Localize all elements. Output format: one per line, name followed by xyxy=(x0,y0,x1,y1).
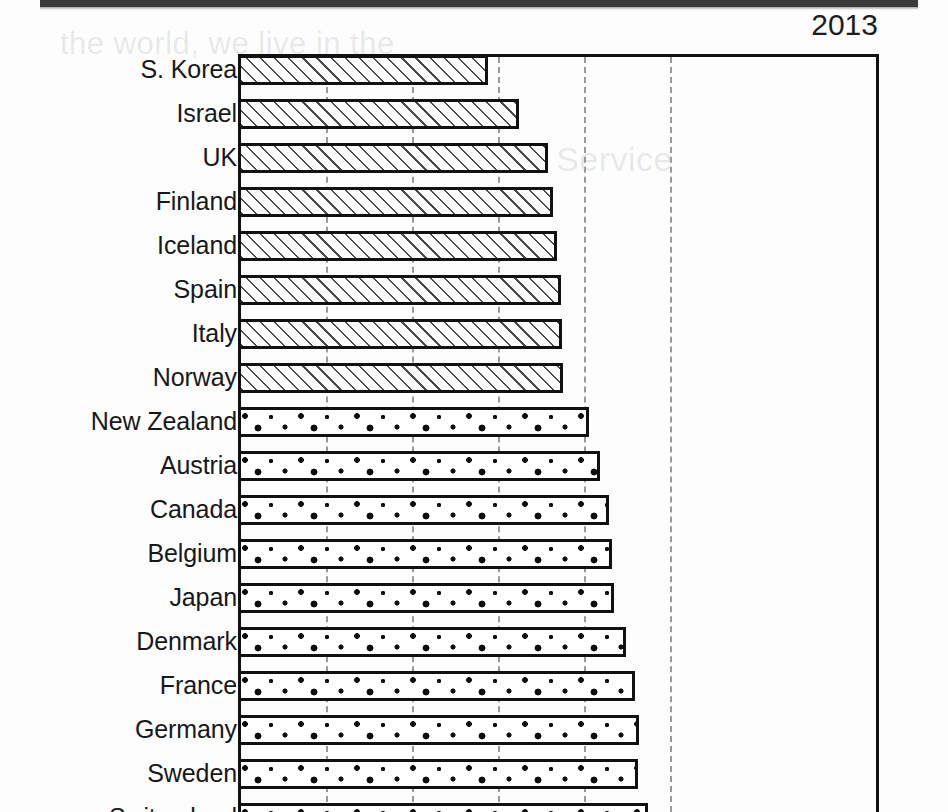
bar-row: Israel xyxy=(0,98,948,142)
category-label: Israel xyxy=(176,98,237,128)
bar-row: Switzerland xyxy=(0,802,948,812)
bar-row: Iceland xyxy=(0,230,948,274)
category-label: Finland xyxy=(156,186,237,216)
chart-year-label: 2013 xyxy=(811,8,878,42)
bar-dots xyxy=(238,803,648,812)
category-label: France xyxy=(160,670,237,700)
bar-row: S. Korea xyxy=(0,54,948,98)
bar-row: Canada xyxy=(0,494,948,538)
category-label: S. Korea xyxy=(141,54,237,84)
bar-rows: S. KoreaIsraelUKFinlandIcelandSpainItaly… xyxy=(0,54,948,812)
bar-dots xyxy=(238,451,600,481)
bar-row: Spain xyxy=(0,274,948,318)
bar-hatch xyxy=(238,363,563,393)
category-label: New Zealand xyxy=(91,406,237,436)
bar-dots xyxy=(238,495,609,525)
category-label: UK xyxy=(202,142,237,172)
category-label: Sweden xyxy=(147,758,237,788)
bar-row: Japan xyxy=(0,582,948,626)
bar-dots xyxy=(238,671,635,701)
bar-row: New Zealand xyxy=(0,406,948,450)
category-label: Italy xyxy=(192,318,237,348)
bar-row: France xyxy=(0,670,948,714)
bar-row: Norway xyxy=(0,362,948,406)
category-label: Spain xyxy=(174,274,237,304)
category-label: Canada xyxy=(150,494,237,524)
bar-dots xyxy=(238,583,614,613)
bar-row: Italy xyxy=(0,318,948,362)
bar-dots xyxy=(238,407,589,437)
bar-dots xyxy=(238,759,638,789)
bar-row: Finland xyxy=(0,186,948,230)
bar-dots xyxy=(238,715,639,745)
category-label: Belgium xyxy=(147,538,237,568)
category-label: Norway xyxy=(153,362,237,392)
bar-dots xyxy=(238,627,626,657)
bar-hatch xyxy=(238,319,562,349)
bar-hatch xyxy=(238,143,548,173)
bar-row: Germany xyxy=(0,714,948,758)
category-label: Iceland xyxy=(157,230,237,260)
bar-hatch xyxy=(238,187,553,217)
bar-hatch xyxy=(238,275,561,305)
chart-page: the world, we live in the Field Service … xyxy=(0,0,948,812)
category-label: Switzerland xyxy=(109,802,237,812)
bar-row: Denmark xyxy=(0,626,948,670)
bar-row: UK xyxy=(0,142,948,186)
bar-hatch xyxy=(238,231,557,261)
bar-hatch xyxy=(238,55,488,85)
bar-row: Austria xyxy=(0,450,948,494)
page-top-rule xyxy=(40,0,918,7)
bar-row: Sweden xyxy=(0,758,948,802)
category-label: Germany xyxy=(135,714,237,744)
bar-row: Belgium xyxy=(0,538,948,582)
category-label: Denmark xyxy=(136,626,237,656)
bar-hatch xyxy=(238,99,519,129)
category-label: Japan xyxy=(169,582,237,612)
category-label: Austria xyxy=(160,450,237,480)
bar-dots xyxy=(238,539,612,569)
